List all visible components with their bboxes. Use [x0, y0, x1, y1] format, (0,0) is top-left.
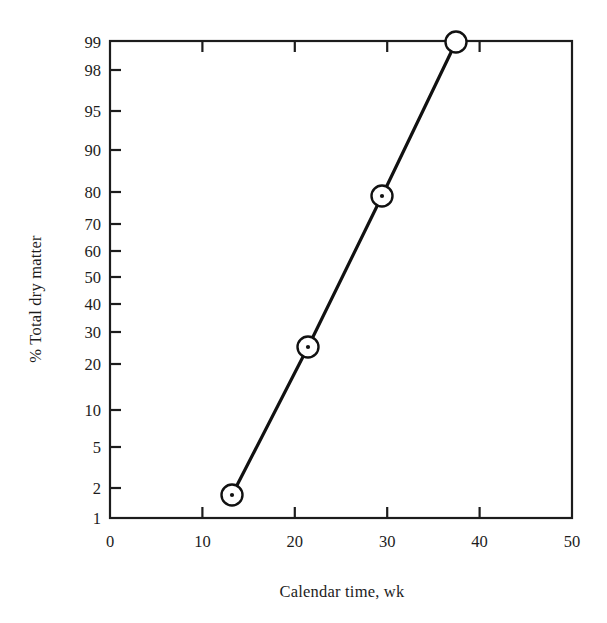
data-series-line	[232, 42, 456, 495]
y-tick-label: 20	[85, 355, 102, 374]
x-tick-label: 40	[471, 532, 488, 551]
series-polyline	[232, 42, 456, 495]
x-tick-label: 10	[194, 532, 211, 551]
y-tick-label: 1	[93, 509, 101, 528]
y-tick-label: 40	[85, 295, 102, 314]
y-tick-label: 98	[85, 61, 102, 80]
y-axis-label: % Total dry matter	[26, 179, 46, 419]
plot-area: 125102030405060708090959899 01020304050	[0, 0, 607, 623]
y-tick-label: 60	[85, 242, 102, 261]
chart-figure: 125102030405060708090959899 01020304050 …	[0, 0, 607, 623]
x-axis-label: Calendar time, wk	[111, 582, 573, 602]
y-tick-label: 5	[93, 438, 101, 457]
y-tick-label: 90	[85, 141, 102, 160]
x-tick-label: 20	[287, 532, 304, 551]
x-tick-label: 30	[379, 532, 396, 551]
y-tick-label: 50	[85, 268, 102, 287]
y-tick-label: 95	[85, 102, 102, 121]
y-tick-label: 70	[85, 215, 102, 234]
y-axis-ticks	[110, 70, 121, 488]
data-point-center-dot	[230, 493, 234, 497]
y-axis-tick-labels: 125102030405060708090959899	[85, 33, 102, 528]
x-tick-label: 50	[564, 532, 581, 551]
x-tick-label: 0	[106, 532, 114, 551]
y-tick-label: 99	[85, 33, 102, 52]
data-series-markers	[222, 32, 467, 506]
data-point-center-dot	[380, 194, 384, 198]
data-point-marker	[446, 32, 467, 53]
y-tick-label: 10	[85, 401, 102, 420]
data-point-center-dot	[306, 345, 310, 349]
y-tick-label: 2	[93, 479, 101, 498]
y-tick-label: 30	[85, 323, 102, 342]
x-axis-tick-labels: 01020304050	[106, 532, 580, 551]
y-tick-label: 80	[85, 183, 102, 202]
